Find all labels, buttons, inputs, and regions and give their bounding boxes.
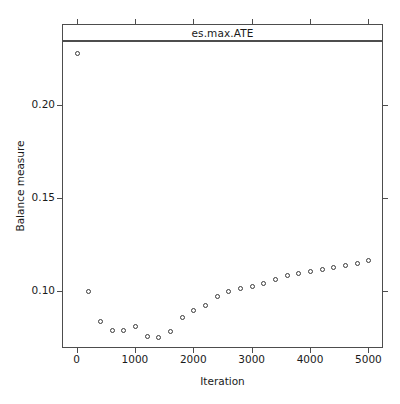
data-point — [226, 289, 231, 294]
data-point — [355, 261, 360, 266]
y-tick — [57, 198, 62, 199]
data-point — [203, 303, 208, 308]
data-point — [320, 267, 325, 272]
data-point — [133, 324, 138, 329]
data-point — [121, 328, 126, 333]
data-point — [156, 335, 161, 340]
x-tick-top — [310, 19, 311, 24]
x-axis-title: Iteration — [62, 375, 383, 387]
data-point — [86, 289, 91, 294]
y-tick — [57, 105, 62, 106]
x-tick-label: 1000 — [105, 353, 165, 365]
data-point — [343, 263, 348, 268]
data-point — [366, 258, 371, 263]
data-point — [145, 334, 150, 339]
x-tick-top — [368, 19, 369, 24]
data-point — [238, 286, 243, 291]
x-tick-label: 3000 — [222, 353, 282, 365]
panel-strip: es.max.ATE — [62, 24, 383, 41]
y-tick-label: 0.10 — [13, 284, 55, 296]
y-axis-title: Balance measure — [14, 86, 26, 286]
x-tick-top — [135, 19, 136, 24]
data-point — [98, 319, 103, 324]
data-point — [285, 273, 290, 278]
data-point — [250, 284, 255, 289]
chart-figure: es.max.ATE 0100020003000400050000.100.15… — [0, 0, 400, 404]
y-tick — [57, 291, 62, 292]
x-tick-top — [193, 19, 194, 24]
x-tick-label: 2000 — [163, 353, 223, 365]
x-tick-label: 4000 — [280, 353, 340, 365]
data-point — [308, 269, 313, 274]
data-point — [261, 281, 266, 286]
data-point — [168, 329, 173, 334]
data-point — [331, 265, 336, 270]
panel-strip-label: es.max.ATE — [63, 25, 382, 42]
data-point — [180, 315, 185, 320]
y-tick-right — [383, 105, 388, 106]
plot-panel — [62, 41, 383, 348]
data-point — [215, 294, 220, 299]
data-point — [273, 277, 278, 282]
x-tick-label: 5000 — [338, 353, 398, 365]
x-tick-top — [252, 19, 253, 24]
data-point — [296, 271, 301, 276]
data-point — [75, 51, 80, 56]
y-tick-right — [383, 198, 388, 199]
x-tick-label: 0 — [47, 353, 107, 365]
y-tick-right — [383, 291, 388, 292]
x-tick-top — [77, 19, 78, 24]
data-point — [191, 308, 196, 313]
data-point — [110, 328, 115, 333]
